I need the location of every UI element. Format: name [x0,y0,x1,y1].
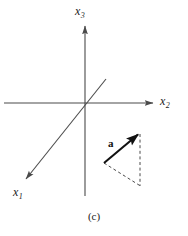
axis-label-x2: x2 [160,95,169,107]
axis-label-x1: x1 [13,186,22,198]
dashed-base-component [104,163,141,186]
figure-caption: (c) [0,211,188,222]
vector-label-a: a [108,138,114,149]
figure-container: x3 x2 x1 a (c) [0,0,188,236]
axis-label-x3: x3 [75,5,84,17]
axis-line-x1 [26,79,106,179]
coordinate-axes-diagram [0,0,188,236]
